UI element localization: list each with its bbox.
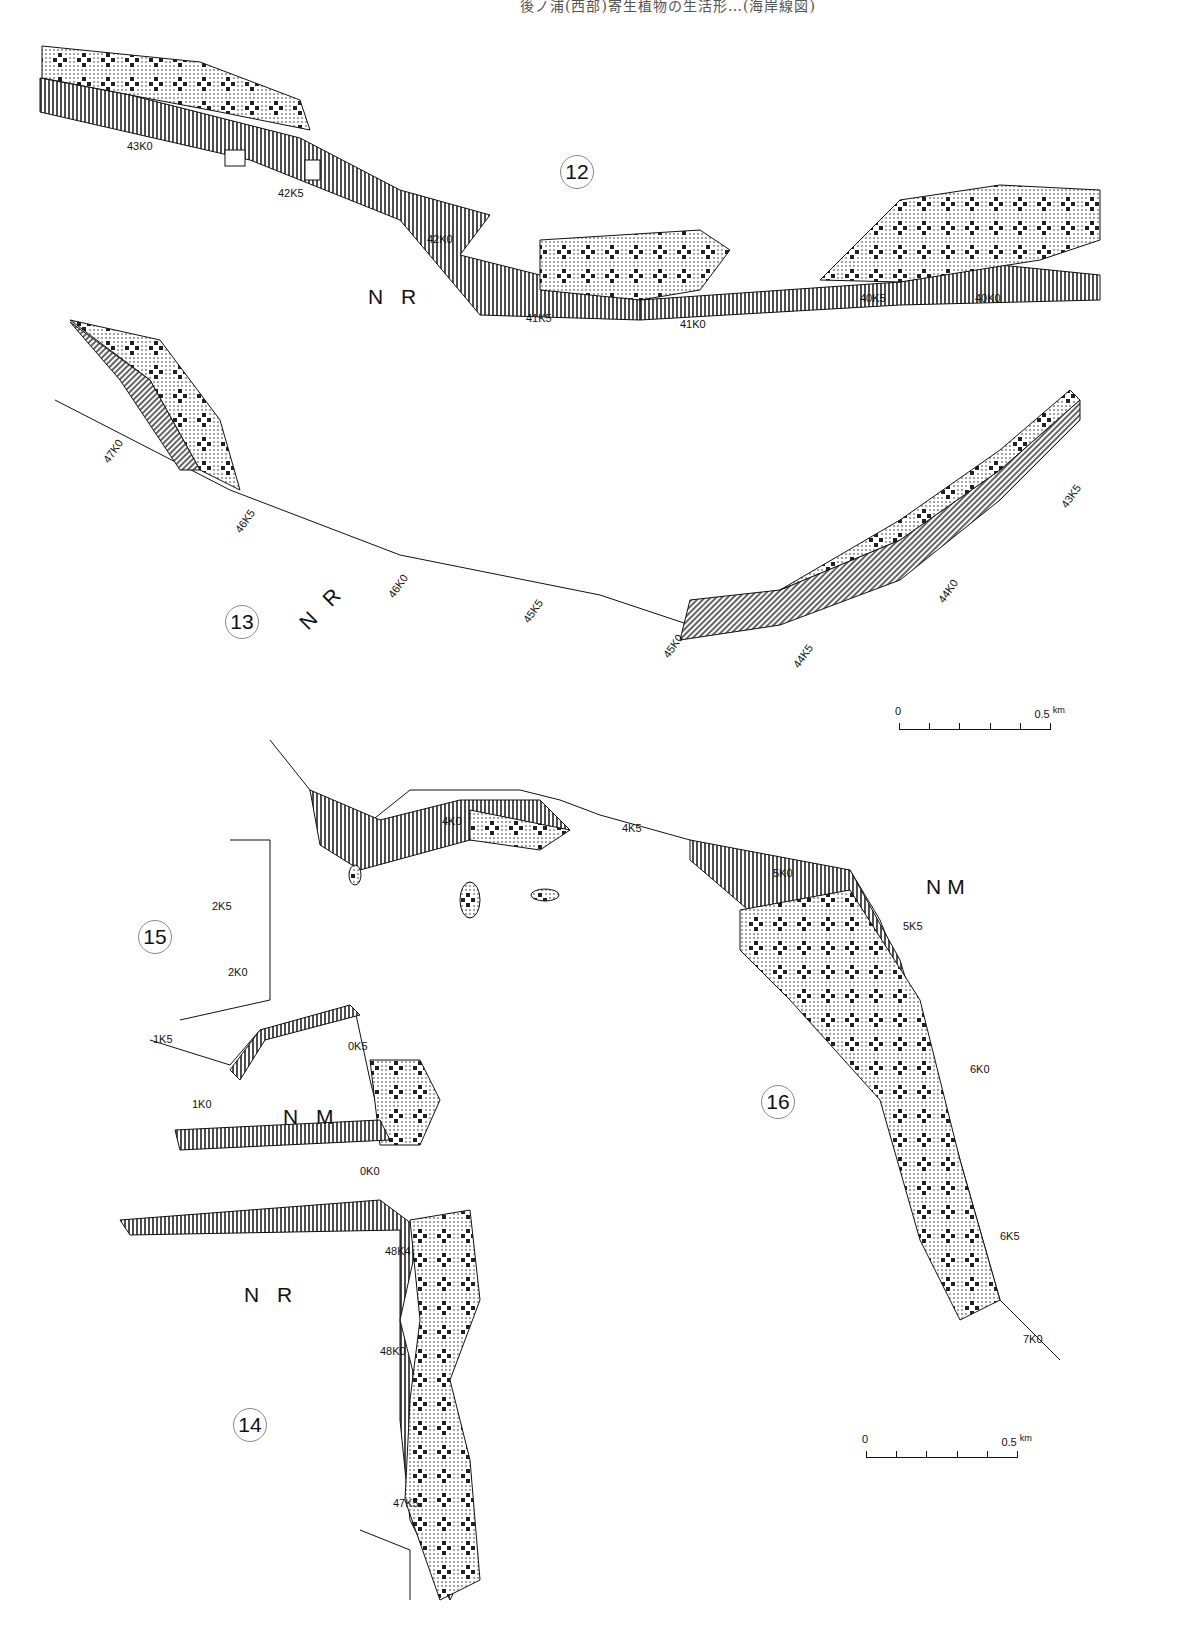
section-16-marker: 16 bbox=[761, 1085, 795, 1119]
scale-bar-bottom: 0 0.5 km bbox=[862, 1433, 1032, 1463]
km-42K0: 42K0 bbox=[427, 233, 453, 245]
section-15-marker: 15 bbox=[138, 920, 172, 954]
section-12-marker: 12 bbox=[560, 155, 594, 189]
km-6K5: 6K5 bbox=[1000, 1230, 1020, 1242]
km-43K0: 43K0 bbox=[127, 140, 153, 152]
scale-end: 0.5 km bbox=[1001, 1433, 1032, 1448]
section-13-marker: 13 bbox=[225, 605, 259, 639]
region-nr-14: N R bbox=[244, 1283, 298, 1307]
km-4K0: 4K0 bbox=[442, 815, 462, 827]
km-7K0: 7K0 bbox=[1023, 1333, 1043, 1345]
scale-end: 0.5 km bbox=[1034, 705, 1065, 720]
scale-start: 0 bbox=[862, 1433, 868, 1445]
region-nm-15: N M bbox=[283, 1105, 340, 1129]
km-40K0: 40K0 bbox=[975, 292, 1001, 304]
coastline-map bbox=[0, 0, 1193, 1626]
km-0K5: 0K5 bbox=[348, 1040, 368, 1052]
scale-start: 0 bbox=[895, 705, 901, 717]
region-nr-12: N R bbox=[368, 285, 422, 309]
km-42K5: 42K5 bbox=[278, 187, 304, 199]
km-41K0: 41K0 bbox=[680, 318, 706, 330]
km-2K5: 2K5 bbox=[212, 900, 232, 912]
km-48K0: 48K0 bbox=[380, 1345, 406, 1357]
scale-line bbox=[866, 1451, 1018, 1458]
km-4K5: 4K5 bbox=[622, 822, 642, 834]
scale-line bbox=[899, 723, 1051, 730]
scale-bar-top: 0 0.5 km bbox=[895, 705, 1065, 735]
km-5K0: 5K0 bbox=[773, 867, 793, 879]
km-48K4: 48K4 bbox=[385, 1245, 411, 1257]
km-1K0: 1K0 bbox=[192, 1098, 212, 1110]
km-41K5: 41K5 bbox=[526, 312, 552, 324]
section-14-marker: 14 bbox=[233, 1408, 267, 1442]
km-2K0: 2K0 bbox=[228, 966, 248, 978]
section-15-16-coast bbox=[120, 740, 1060, 1600]
region-nm-16: NM bbox=[926, 875, 971, 899]
km-40K5: 40K5 bbox=[860, 292, 886, 304]
section-13-coast bbox=[55, 320, 1080, 640]
km-0K0: 0K0 bbox=[360, 1165, 380, 1177]
km-1K5: 1K5 bbox=[153, 1033, 173, 1045]
km-5K5: 5K5 bbox=[903, 920, 923, 932]
km-6K0: 6K0 bbox=[970, 1063, 990, 1075]
km-47K5: 47K5 bbox=[393, 1497, 419, 1509]
